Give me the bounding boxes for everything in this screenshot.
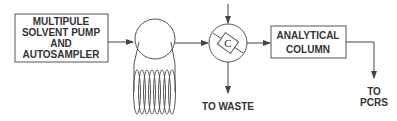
column-switch-valve-icon: C [209, 24, 247, 62]
flow-diagram: MULTIPULE SOLVENT PUMP AND AUTOSAMPLER C [0, 0, 397, 121]
pump-label-line-3: AND [50, 38, 72, 49]
pump-autosampler-box: MULTIPULE SOLVENT PUMP AND AUTOSAMPLER [15, 14, 108, 62]
pump-label-line-2: SOLVENT PUMP [22, 27, 100, 38]
column-label-line-2: COLUMN [286, 44, 330, 55]
to-pcrs-label-line-1: TO [367, 86, 381, 97]
arrow-column-to-pcrs [346, 42, 374, 78]
to-waste-label: TO WASTE [202, 101, 254, 112]
to-pcrs-label-line-2: PCRS [360, 97, 388, 108]
column-label-line-1: ANALYTICAL [277, 30, 340, 41]
sample-loop-coil-icon [134, 64, 176, 114]
analytical-column-box: ANALYTICAL COLUMN [271, 26, 346, 58]
loop-valve-icon [134, 19, 175, 64]
pump-label-line-4: AUTOSAMPLER [22, 49, 100, 60]
column-valve-label: C [224, 37, 231, 49]
pump-label-line-1: MULTIPULE [33, 16, 90, 27]
